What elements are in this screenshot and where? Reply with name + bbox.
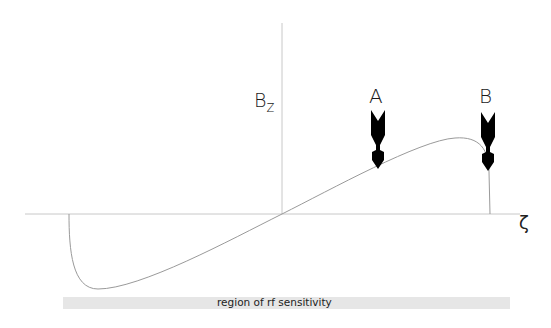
field-profile-diagram bbox=[0, 0, 551, 328]
marker-a-label: A bbox=[369, 84, 383, 108]
arrow-b-icon bbox=[481, 112, 495, 171]
arrow-a-icon bbox=[371, 110, 385, 169]
y-axis-label: Bz bbox=[254, 89, 274, 111]
y-axis-label-subscript: z bbox=[266, 98, 274, 116]
field-curve bbox=[69, 138, 490, 289]
x-axis-label: ζ bbox=[519, 212, 529, 233]
marker-b-label: B bbox=[479, 84, 492, 108]
region-of-sensitivity-label: region of rf sensitivity bbox=[217, 296, 332, 308]
y-axis-label-main: B bbox=[254, 89, 266, 111]
